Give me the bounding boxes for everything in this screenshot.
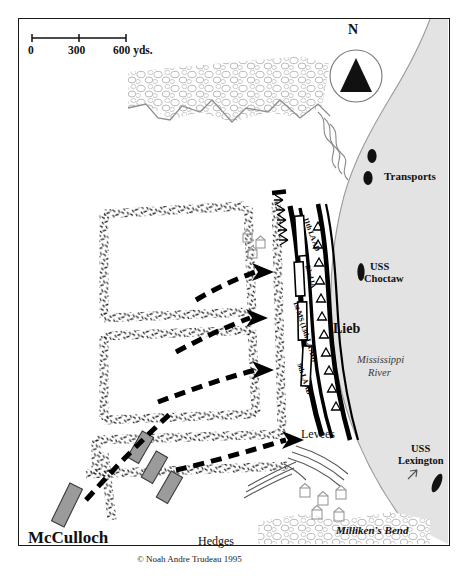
map-border-frame bbox=[18, 18, 450, 546]
woods-bottom-small-left bbox=[200, 548, 250, 572]
copyright-credit: © Noah Andre Trudeau 1995 bbox=[137, 554, 242, 564]
battle-map: 0 300 600 yds. N Transports USS Choctaw … bbox=[0, 0, 468, 582]
